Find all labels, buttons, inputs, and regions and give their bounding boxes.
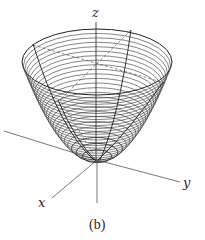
z-axis-label: z (91, 5, 99, 20)
level-curve (40, 78, 154, 128)
y-axis (97, 160, 180, 182)
level-curve (64, 127, 130, 156)
x-axis-label: x (38, 195, 46, 210)
level-curves (23, 33, 170, 162)
level-curve (53, 107, 141, 146)
y-axis-label: y (182, 175, 191, 190)
figure-caption: (b) (89, 217, 106, 233)
x-axis (52, 160, 97, 198)
level-curve (38, 74, 156, 126)
paraboloid-figure: z x y (b) (0, 0, 205, 240)
level-curve (23, 33, 170, 98)
axes (4, 22, 180, 203)
